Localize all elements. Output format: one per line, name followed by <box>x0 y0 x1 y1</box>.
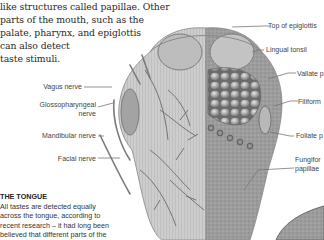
label-fungiform-papillae: Fungifor <box>295 155 321 164</box>
left-side-oval <box>121 89 139 135</box>
epiglottis-lobe-right <box>210 34 254 70</box>
caption-line: across the tongue, according to <box>0 211 150 221</box>
caption-line: recent research – it had long been <box>0 221 150 231</box>
label-top-of-epiglottis: Top of epiglottis <box>268 21 317 30</box>
caption-title: THE TONGUE <box>0 192 150 202</box>
label-glossopharyngeal-nerve-line2: nerve <box>12 109 96 118</box>
label-foliate-papillae: Foliate p <box>296 131 323 140</box>
label-vallate-papillae: Vallate p <box>297 69 324 78</box>
label-filiform-papillae: Filiform <box>298 97 321 106</box>
label-mandibular-nerve: Mandibular nerve <box>12 131 96 140</box>
label-fungiform-papillae-line2: papillae <box>295 164 319 173</box>
epiglottis-lobe-left <box>158 34 202 70</box>
caption-line: believed that different parts of the <box>0 230 150 240</box>
label-vagus-nerve: Vagus nerve <box>32 82 82 91</box>
label-lingual-tonsil: Lingual tonsil <box>266 45 307 54</box>
label-facial-nerve: Facial nerve <box>12 154 96 163</box>
magnified-papilla-detail <box>276 206 324 240</box>
foliate-papillae <box>259 106 271 134</box>
caption-line: All tastes are detected equally <box>0 202 150 212</box>
label-glossopharyngeal-nerve: Glossopharyngeal <box>12 100 96 109</box>
caption-body: All tastes are detected equally across t… <box>0 202 150 240</box>
tongue-caption: THE TONGUE All tastes are detected equal… <box>0 192 150 240</box>
